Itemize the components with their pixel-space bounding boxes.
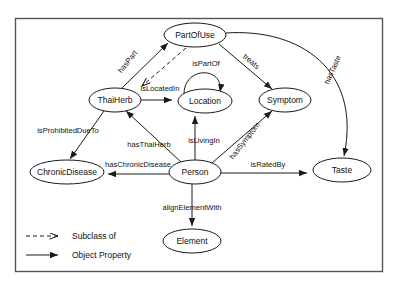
- edge-label-hastaste: hasTaste: [322, 54, 343, 85]
- edge-subclass-partofuse-thaiherb: [142, 48, 186, 86]
- edge-treats: [219, 44, 272, 89]
- edge-label-treats: treats: [241, 52, 261, 71]
- edge-label-haschronicdisease: hasChronicDisease: [105, 160, 171, 169]
- edge-labels-layer: hasPart isLocatedIn isPartOf treats hasT…: [37, 48, 343, 212]
- node-label-element: Element: [176, 236, 208, 246]
- legend-label-object-property: Object Property: [72, 250, 132, 260]
- legend: Subclass of Object Property: [26, 231, 132, 260]
- edge-label-haspart: hasPart: [116, 48, 140, 75]
- node-label-symptom: Symptom: [267, 95, 303, 105]
- edge-label-islocatedin: isLocatedIn: [141, 84, 180, 93]
- edge-label-ispartof: isPartOf: [192, 59, 220, 68]
- edge-label-alignelementwith: alignElementWith: [162, 203, 221, 212]
- edge-label-isratedby: isRatedBy: [251, 160, 286, 169]
- node-label-location: Location: [189, 96, 221, 106]
- node-location[interactable]: Location: [178, 89, 232, 113]
- node-label-person: Person: [182, 167, 209, 177]
- edge-isprohibiteddueto: [70, 111, 104, 159]
- node-label-partofuse: PartOfUse: [175, 30, 215, 40]
- edge-label-hasthaiherb: hasThaiHerb: [127, 140, 170, 149]
- node-symptom[interactable]: Symptom: [259, 88, 311, 112]
- edge-hasthaiherb: [126, 111, 181, 162]
- legend-item-object-property: Object Property: [26, 250, 132, 260]
- node-element[interactable]: Element: [163, 229, 221, 253]
- node-person[interactable]: Person: [169, 160, 221, 184]
- node-label-chronicdisease: ChronicDisease: [37, 167, 97, 177]
- node-partofuse[interactable]: PartOfUse: [164, 23, 226, 47]
- edge-label-islivingin: isLivingIn: [188, 136, 220, 145]
- node-label-thaiherb: ThaiHerb: [98, 95, 133, 105]
- node-thaiherb[interactable]: ThaiHerb: [89, 88, 141, 112]
- node-taste[interactable]: Taste: [313, 158, 371, 182]
- node-label-taste: Taste: [332, 165, 353, 175]
- ontology-canvas: PartOfUse ThaiHerb Location Symptom Tast…: [0, 0, 399, 289]
- edge-label-hassymptom: hasSymptom: [227, 120, 261, 160]
- ontology-diagram: PartOfUse ThaiHerb Location Symptom Tast…: [0, 0, 399, 289]
- edge-label-isprohibiteddueto: isProhibitedDueTo: [37, 126, 99, 135]
- node-chronicdisease[interactable]: ChronicDisease: [30, 160, 104, 184]
- legend-item-subclass-of: Subclass of: [26, 231, 117, 241]
- legend-label-subclass-of: Subclass of: [72, 231, 117, 241]
